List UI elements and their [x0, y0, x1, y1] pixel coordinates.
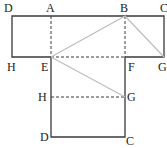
label-G-top: G	[158, 60, 167, 74]
fold-line-EB	[51, 16, 125, 57]
label-D-bottom: D	[40, 130, 49, 144]
label-C-bottom: C	[126, 134, 134, 148]
label-H-top: H	[7, 60, 16, 74]
fold-line-EG	[51, 57, 125, 97]
label-B: B	[120, 1, 128, 15]
folding-diagram: D A B C H E F G H G D C	[0, 0, 167, 148]
label-A: A	[46, 1, 55, 15]
label-D-top: D	[4, 1, 13, 15]
label-G-bottom: G	[127, 90, 136, 104]
label-H-bottom: H	[38, 90, 47, 104]
fold-line-BG	[125, 16, 164, 57]
label-C-top: C	[160, 1, 167, 15]
label-E: E	[41, 60, 48, 74]
label-F: F	[128, 60, 135, 74]
